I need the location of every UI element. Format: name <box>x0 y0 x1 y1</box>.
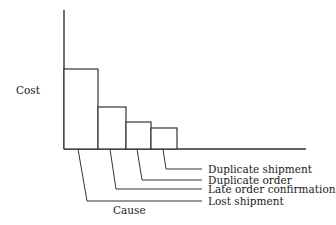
y-axis-label: Cost <box>16 84 41 96</box>
category-leaders: Lost shipmentLate order confirmationDupl… <box>78 149 336 207</box>
bar-late-order-confirmation <box>98 107 126 149</box>
category-label: Duplicate shipment <box>208 163 313 175</box>
bar-lost-shipment <box>64 69 98 149</box>
category-label: Duplicate order <box>208 174 293 186</box>
category-label: Lost shipment <box>208 195 284 207</box>
bar-duplicate-order <box>126 122 151 149</box>
leader-line <box>163 149 202 169</box>
leader-line <box>78 149 202 201</box>
bars <box>64 69 177 149</box>
pareto-chart: Lost shipmentLate order confirmationDupl… <box>0 0 336 225</box>
x-axis-label: Cause <box>113 204 146 216</box>
leader-line <box>137 149 202 180</box>
bar-duplicate-shipment <box>151 128 177 149</box>
